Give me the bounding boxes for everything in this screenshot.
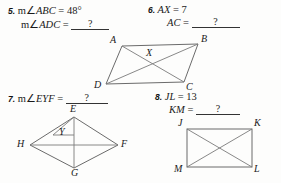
angle-symbol-icon: ∠ xyxy=(26,5,36,16)
problem-6-answer-blank[interactable]: ? xyxy=(192,16,240,28)
rhombus-svg xyxy=(22,110,127,172)
worksheet-page: 5. m∠ABC = 48° m∠ADC = ? 6. AX = 7 AC = … xyxy=(0,0,281,183)
problem-8-find-equals: = xyxy=(187,104,193,115)
vertex-label-l: L xyxy=(254,164,260,174)
vertex-label-b: B xyxy=(201,34,207,44)
vertex-label-h: H xyxy=(17,139,24,149)
problem-7: 7. m∠EYF = ? xyxy=(8,92,108,105)
problem-5-find-prefix: m xyxy=(21,19,29,30)
problem-5-line-2: m∠ADC = ? xyxy=(8,18,109,31)
vertex-label-e: E xyxy=(70,104,76,114)
problem-7-line-1: 7. m∠EYF = ? xyxy=(8,92,108,105)
problem-5-answer-value: ? xyxy=(88,18,92,29)
vertex-label-g: G xyxy=(71,168,78,178)
vertex-label-f: F xyxy=(121,139,127,149)
vertex-label-m: M xyxy=(174,164,182,174)
problem-8-given-equals: = xyxy=(178,91,184,102)
problem-6-given-name: AX xyxy=(158,4,171,15)
vertex-label-k: K xyxy=(254,118,261,128)
problem-6-given-value: 7 xyxy=(182,4,187,15)
angle-symbol-icon: ∠ xyxy=(26,93,36,104)
problem-8-answer-blank[interactable]: ? xyxy=(196,103,240,115)
problem-7-number: 7. xyxy=(8,94,15,104)
vertex-label-x: X xyxy=(146,48,152,58)
problem-8-line-1: 8. JL = 13 xyxy=(155,91,240,102)
vertex-label-d: D xyxy=(94,80,101,90)
problem-5-given-name: ABC xyxy=(36,5,56,16)
vertex-label-a: A xyxy=(110,35,116,45)
problem-5: 5. m∠ABC = 48° m∠ADC = ? xyxy=(8,4,109,31)
problem-5-given-value: 48° xyxy=(67,5,82,16)
problem-6-line-1: 6. AX = 7 xyxy=(148,4,240,15)
problem-8-number: 8. xyxy=(155,92,162,102)
problem-7-find-name: EYF xyxy=(36,93,55,104)
problem-6-find-name: AC xyxy=(167,17,180,28)
problem-6-answer-value: ? xyxy=(213,16,217,27)
problem-6-find-equals: = xyxy=(183,17,189,28)
problem-8-find-name: KM xyxy=(169,104,185,115)
problem-5-line-1: 5. m∠ABC = 48° xyxy=(8,4,109,16)
problem-5-find-equals: = xyxy=(63,19,69,30)
problem-8: 8. JL = 13 KM = ? xyxy=(155,91,240,116)
problem-8-answer-value: ? xyxy=(216,103,220,114)
problem-7-answer-value: ? xyxy=(85,92,89,103)
problem-6-given-equals: = xyxy=(173,4,179,15)
figure-rhombus-efgh: E F G H Y xyxy=(22,110,127,172)
vertex-label-y: Y xyxy=(59,127,65,137)
figure-parallelogram-abcd: A B C D X xyxy=(98,38,208,88)
problem-5-find-name: ADC xyxy=(39,19,60,30)
problem-8-given-value: 13 xyxy=(186,91,197,102)
problem-5-given-equals: = xyxy=(58,5,64,16)
problem-5-answer-blank[interactable]: ? xyxy=(71,18,109,30)
figure-rectangle-jklm: J K L M xyxy=(168,116,258,174)
problem-6: 6. AX = 7 AC = ? xyxy=(148,4,240,29)
problem-6-number: 6. xyxy=(148,5,155,15)
angle-symbol-icon: ∠ xyxy=(29,19,39,30)
problem-7-find-prefix: m xyxy=(18,93,26,104)
problem-6-line-2: AC = ? xyxy=(148,17,240,29)
problem-7-find-equals: = xyxy=(57,93,63,104)
problem-5-number: 5. xyxy=(8,6,15,16)
problem-8-line-2: KM = ? xyxy=(155,104,240,116)
problem-8-given-name: JL xyxy=(165,91,175,102)
problem-5-given-prefix: m xyxy=(18,5,26,16)
vertex-label-j: J xyxy=(178,118,182,128)
